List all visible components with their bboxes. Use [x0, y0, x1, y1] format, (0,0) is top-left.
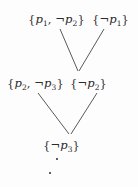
- close-brace: }: [100, 76, 107, 90]
- close-brace: }: [73, 138, 80, 152]
- subscript-1: 1: [43, 19, 48, 28]
- clause-node-mid-right: {¬p2}: [70, 76, 107, 90]
- literal-p2: p2: [65, 12, 77, 26]
- literal-p2: p2: [87, 76, 99, 90]
- negation-sign: ¬: [99, 12, 109, 26]
- close-brace: }: [56, 76, 63, 90]
- subscript-2: 2: [95, 83, 100, 92]
- subscript-3: 3: [68, 145, 73, 154]
- literal-p3: p3: [60, 138, 72, 152]
- edge-midleft-to-bottom: [38, 93, 69, 134]
- edge-topright-to-midright: [79, 29, 104, 71]
- literal-p1: p1: [35, 12, 47, 26]
- close-brace: }: [122, 12, 129, 26]
- vertical-ellipsis-dot-2: [49, 172, 51, 174]
- edge-layer: [0, 0, 138, 187]
- literal-p3: p3: [44, 76, 56, 90]
- subscript-3: 3: [52, 83, 57, 92]
- negation-sign: ¬: [77, 76, 87, 90]
- edge-topleft-to-midright: [60, 29, 78, 71]
- resolution-tree-diagram: {p1, ¬p2} {¬p1} {p2, ¬p3} {¬p2} {¬p3}: [0, 0, 138, 187]
- negation-sign: ¬: [50, 138, 60, 152]
- negation-sign: ¬: [55, 12, 65, 26]
- negation-sign: ¬: [34, 76, 44, 90]
- subscript-2: 2: [22, 83, 27, 92]
- literal-p1: p1: [109, 12, 121, 26]
- clause-node-top-left: {p1, ¬p2}: [28, 12, 85, 26]
- close-brace: }: [77, 12, 84, 26]
- clause-node-top-right: {¬p1}: [92, 12, 129, 26]
- subscript-1: 1: [117, 19, 122, 28]
- clause-node-bottom: {¬p3}: [43, 138, 80, 152]
- clause-node-mid-left: {p2, ¬p3}: [7, 76, 64, 90]
- literal-p2: p2: [14, 76, 26, 90]
- edge-midright-to-bottom: [71, 93, 97, 134]
- subscript-2: 2: [73, 19, 78, 28]
- vertical-ellipsis-dot-1: [56, 158, 58, 160]
